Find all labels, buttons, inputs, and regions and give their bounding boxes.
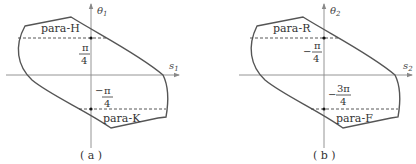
region-label-para-r: para-R: [273, 22, 311, 35]
svg-text:4: 4: [81, 55, 87, 66]
svg-text:−: −: [303, 46, 311, 57]
panel-a: para-H para-K π 4 − π 4 θ1 s1 ( a ): [6, 4, 179, 162]
panel-b: para-R para-F − π 4 − 3π 4 θ2 s2 ( b ): [239, 4, 413, 162]
svg-text:−: −: [328, 89, 336, 100]
lower-point-a: [89, 107, 92, 110]
upper-level-label-a: π 4: [79, 42, 90, 66]
y-axis-label-theta2: θ2: [330, 5, 341, 18]
region-label-para-k: para-K: [103, 112, 141, 125]
upper-point-b: [322, 36, 325, 39]
svg-text:π: π: [314, 40, 321, 51]
svg-text:4: 4: [340, 96, 346, 107]
svg-text:π: π: [104, 85, 111, 96]
upper-level-label-b: − π 4: [303, 40, 322, 64]
svg-text:4: 4: [313, 53, 319, 64]
lower-level-label-a: − π 4: [95, 85, 113, 109]
x-axis-label-s1: s1: [169, 60, 179, 73]
region-label-para-h: para-H: [41, 22, 80, 35]
caption-a: ( a ): [80, 149, 102, 162]
upper-point-a: [89, 36, 92, 39]
x-axis-label-s2: s2: [403, 60, 413, 73]
region-label-para-f: para-F: [336, 112, 373, 125]
lower-level-label-b: − 3π 4: [328, 83, 351, 107]
svg-text:4: 4: [104, 98, 110, 109]
figure-canvas: para-H para-K π 4 − π 4 θ1 s1 ( a ) para…: [0, 0, 416, 164]
lower-point-b: [322, 107, 325, 110]
svg-text:3π: 3π: [337, 83, 350, 94]
svg-text:−: −: [95, 85, 103, 96]
caption-b: ( b ): [313, 149, 336, 162]
svg-text:π: π: [82, 42, 89, 53]
y-axis-label-theta1: θ1: [97, 5, 108, 18]
